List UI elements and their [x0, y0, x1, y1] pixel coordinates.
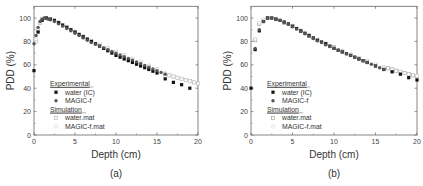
y-tick-label: 100 [236, 15, 248, 22]
y-tick-label: 0 [27, 132, 31, 139]
legend-entry: MAGIC-f.mat [65, 123, 105, 130]
legend-entry: water.mat [64, 114, 95, 121]
y-tick-label: 40 [240, 85, 248, 92]
legend-heading: Simulation [50, 106, 82, 113]
legend-entry: MAGIC-f.mat [282, 123, 322, 130]
x-tick-label: 10 [112, 138, 120, 145]
y-tick-label: 0 [244, 132, 248, 139]
legend: Experimentalwater (IC)MAGIC-fSimulationw… [267, 80, 322, 130]
x-tick-label: 20 [413, 138, 421, 145]
y-axis-label: PDD (%) [222, 51, 233, 90]
legend: Experimentalwater (IC)MAGIC-fSimulationw… [50, 80, 105, 130]
x-tick-label: 15 [372, 138, 380, 145]
x-tick-label: 20 [194, 138, 202, 145]
x-tick-label: 0 [32, 138, 36, 145]
panel-label: (a) [110, 168, 122, 179]
chart-panel-a: 05101520020406080100Depth (cm)PDD (%)(a)… [5, 6, 202, 179]
x-tick-label: 5 [73, 138, 77, 145]
x-axis-label: Depth (cm) [91, 149, 140, 160]
series-magic-f [253, 16, 385, 71]
series-magic-f [32, 16, 167, 76]
plot-frame [34, 6, 198, 135]
legend-entry: MAGIC-f [65, 97, 92, 104]
panel-label: (b) [328, 168, 340, 179]
legend-entry: water.mat [281, 114, 312, 121]
y-tick-label: 100 [19, 15, 31, 22]
x-tick-label: 15 [153, 138, 161, 145]
x-axis-label: Depth (cm) [309, 149, 358, 160]
x-tick-label: 0 [249, 138, 253, 145]
legend-entry: water (IC) [64, 89, 95, 97]
legend-entry: water (IC) [281, 89, 312, 97]
y-tick-label: 20 [240, 108, 248, 115]
x-tick-label: 10 [330, 138, 338, 145]
legend-heading: Simulation [267, 106, 299, 113]
series-water-ic- [32, 16, 191, 89]
x-tick-label: 5 [291, 138, 295, 145]
y-tick-label: 80 [240, 38, 248, 45]
y-tick-label: 60 [240, 61, 248, 68]
series-water-ic- [249, 16, 418, 89]
y-tick-label: 20 [23, 108, 31, 115]
figure: 05101520020406080100Depth (cm)PDD (%)(a)… [0, 0, 423, 186]
chart-panel-b: 05101520020406080100Depth (cm)PDD (%)(b)… [222, 6, 421, 179]
y-tick-label: 40 [23, 85, 31, 92]
y-tick-label: 60 [23, 61, 31, 68]
y-axis-label: PDD (%) [5, 51, 16, 90]
y-tick-label: 80 [23, 38, 31, 45]
legend-entry: MAGIC-f [282, 97, 309, 104]
figure-svg: 05101520020406080100Depth (cm)PDD (%)(a)… [0, 0, 423, 186]
